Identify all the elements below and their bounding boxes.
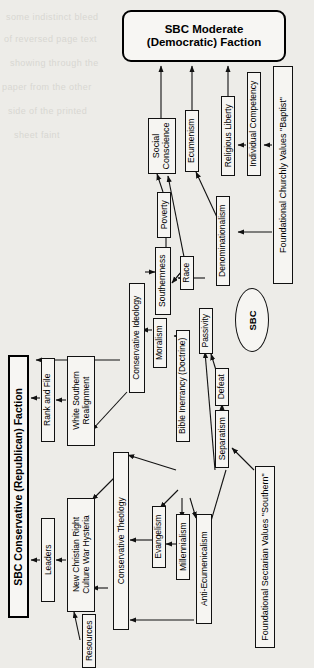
moderate-faction-title-box[interactable]: SBC Moderate (Democratic) Faction: [122, 10, 286, 62]
node-conservative-theology[interactable]: Conservative Theology: [113, 452, 129, 630]
white-southern-line-1: White Southern: [70, 372, 80, 431]
node-individual-competency[interactable]: Individual Competency: [247, 72, 261, 176]
node-defeat[interactable]: Defeat: [215, 368, 229, 406]
node-sbc[interactable]: SBC: [235, 288, 269, 352]
white-southern-line-2: Realignment: [80, 377, 90, 425]
bible-inerrancy-label: Bible Inerrancy (Doctrine): [178, 338, 188, 434]
leaders-label: Leaders: [43, 545, 53, 576]
separatism-label: Separatism: [217, 417, 227, 460]
ghost-text-line: side of the printed: [8, 106, 87, 116]
node-moralism[interactable]: Moralism: [153, 318, 167, 368]
title-line-1: SBC Moderate: [147, 23, 261, 36]
node-evangelism[interactable]: Evangelism: [152, 506, 166, 568]
node-rank-and-file[interactable]: Rank and File: [41, 358, 55, 442]
new-christian-right-line-1: New Christian Right: [70, 517, 80, 592]
node-denominationalism[interactable]: Denominationalism: [216, 196, 230, 286]
moralism-label: Moralism: [155, 326, 165, 360]
individual-competency-label: Individual Competency: [249, 81, 259, 167]
evangelism-label: Evangelism: [154, 515, 164, 559]
religious-liberty-label: Religious Liberty: [223, 105, 233, 168]
denominationalism-label: Denominationalism: [218, 205, 228, 277]
social-conscience-line-1: Social: [152, 134, 162, 159]
node-religious-liberty[interactable]: Religious Liberty: [221, 96, 235, 176]
resources-label: Resources: [84, 621, 94, 662]
anti-ecumenicalism-label: Anti-Ecumenicalism: [199, 532, 209, 607]
conservative-faction-title-box[interactable]: SBC Conservative (Republican) Faction: [8, 355, 29, 618]
conservative-faction-title: SBC Conservative (Republican) Faction: [13, 388, 25, 586]
node-foundational-sectarian-values[interactable]: Foundational Sectarian Values "Southern": [255, 466, 275, 648]
new-christian-right-label: New Christian Right Culture War Hysteria: [71, 516, 90, 595]
ghost-text-line: of reversed page text: [4, 34, 97, 44]
southernness-label: Southernness: [158, 255, 168, 307]
node-leaders[interactable]: Leaders: [41, 518, 55, 602]
title-line-2: (Democratic) Faction: [147, 36, 261, 49]
node-southernness[interactable]: Southernness: [155, 247, 171, 315]
node-resources[interactable]: Resources: [82, 614, 96, 668]
defeat-label: Defeat: [217, 374, 227, 399]
node-social-conscience[interactable]: Social Conscience: [148, 118, 176, 174]
new-christian-right-line-2: Culture War Hysteria: [80, 516, 90, 595]
ghost-text-line: showing through the: [10, 58, 99, 68]
conservative-theology-label: Conservative Theology: [116, 498, 126, 585]
node-separatism[interactable]: Separatism: [215, 410, 229, 468]
node-new-christian-right[interactable]: New Christian Right Culture War Hysteria: [67, 498, 95, 612]
node-foundational-churchly-values[interactable]: Foundational Churchly Values "Baptist": [273, 66, 293, 284]
moderate-faction-title: SBC Moderate (Democratic) Faction: [147, 23, 261, 49]
ghost-text-line: some indistinct bleed: [6, 12, 98, 22]
foundational-churchly-label: Foundational Churchly Values "Baptist": [278, 97, 288, 253]
race-label: Race: [182, 263, 192, 283]
ghost-text-line: sheet faint: [14, 130, 60, 140]
node-conservative-ideology[interactable]: Conservative Ideology: [129, 283, 145, 393]
social-conscience-line-2: Conscience: [162, 122, 172, 169]
poverty-label: Poverty: [159, 201, 169, 230]
node-race[interactable]: Race: [180, 256, 194, 290]
diagram-canvas: some indistinct bleed of reversed page t…: [0, 0, 314, 668]
node-ecumenism[interactable]: Ecumenism: [185, 110, 199, 172]
ghost-text-line: paper from the other: [2, 82, 92, 92]
passivity-label: Passivity: [201, 314, 211, 348]
node-passivity[interactable]: Passivity: [199, 308, 213, 354]
node-millennialism[interactable]: Millennialism: [176, 514, 190, 580]
node-bible-inerrancy[interactable]: Bible Inerrancy (Doctrine): [176, 330, 190, 442]
millennialism-label: Millennialism: [178, 523, 188, 572]
foundational-sectarian-label: Foundational Sectarian Values "Southern": [260, 473, 270, 640]
social-conscience-label: Social Conscience: [152, 122, 172, 169]
node-anti-ecumenicalism[interactable]: Anti-Ecumenicalism: [196, 514, 212, 624]
ecumenism-label: Ecumenism: [187, 119, 197, 163]
node-white-southern-realignment[interactable]: White Southern Realignment: [67, 356, 95, 446]
rank-and-file-label: Rank and File: [43, 374, 53, 426]
node-poverty[interactable]: Poverty: [157, 192, 171, 238]
white-southern-realignment-label: White Southern Realignment: [71, 372, 90, 431]
conservative-ideology-label: Conservative Ideology: [132, 296, 142, 380]
sbc-label: SBC: [247, 310, 258, 330]
